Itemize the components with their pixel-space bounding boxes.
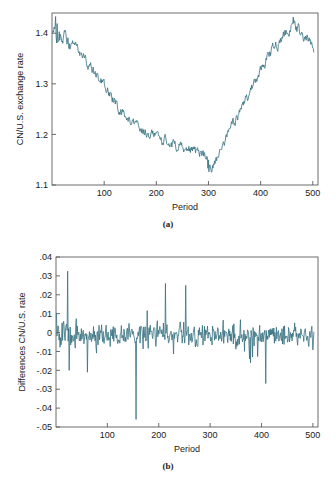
x-axis-label: Period <box>174 444 200 454</box>
y-tick-label: 1.2 <box>35 130 48 140</box>
data-line <box>53 17 314 173</box>
plot-frame <box>56 257 318 427</box>
x-tick-label: 300 <box>203 430 218 440</box>
x-tick-label: 400 <box>253 188 268 198</box>
figure-b-caption: (b) <box>0 461 336 471</box>
y-tick-label: .02 <box>39 290 52 300</box>
y-tick-label: 1.1 <box>35 180 48 190</box>
y-axis-label: Differences CN/U.S. rate <box>17 293 27 392</box>
x-tick-label: 500 <box>305 188 320 198</box>
y-tick-label: -.03 <box>36 384 52 394</box>
x-tick-label: 400 <box>254 430 269 440</box>
x-tick-label: 500 <box>305 430 320 440</box>
x-tick-label: 300 <box>201 188 216 198</box>
x-axis-label: Period <box>172 202 198 212</box>
figure-a-caption: (a) <box>0 219 336 229</box>
y-tick-label: -.04 <box>36 403 52 413</box>
x-tick-label: 200 <box>151 430 166 440</box>
y-tick-label: 0 <box>47 328 52 338</box>
y-axis-label: CN/U.S. exchange rate <box>15 53 25 146</box>
differences-chart: 100200300400500.04.03.02.010-.01-.02-.03… <box>0 242 336 484</box>
y-tick-label: 1.3 <box>35 79 48 89</box>
exchange-rate-chart: 1002003004005001.11.21.31.4PeriodCN/U.S.… <box>0 0 336 242</box>
y-tick-label: .01 <box>39 309 52 319</box>
data-line <box>57 271 314 419</box>
x-tick-label: 100 <box>100 430 115 440</box>
y-tick-label: .03 <box>39 271 52 281</box>
y-tick-label: -.05 <box>36 422 52 432</box>
y-tick-label: .04 <box>39 252 52 262</box>
x-tick-label: 100 <box>97 188 112 198</box>
figure-a: 1002003004005001.11.21.31.4PeriodCN/U.S.… <box>0 0 336 242</box>
figure-b: 100200300400500.04.03.02.010-.01-.02-.03… <box>0 242 336 484</box>
plot-frame <box>52 13 318 185</box>
x-tick-label: 200 <box>149 188 164 198</box>
y-tick-label: 1.4 <box>35 28 48 38</box>
y-tick-label: -.02 <box>36 366 52 376</box>
y-tick-label: -.01 <box>36 347 52 357</box>
